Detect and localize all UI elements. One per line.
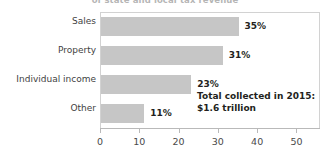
category-axis: Sales Property Individual income Other <box>0 12 96 129</box>
bar-property <box>101 46 223 65</box>
total-annotation: Total collected in 2015: $1.6 trillion <box>197 91 315 114</box>
annotation-line-2: $1.6 trillion <box>197 103 315 115</box>
x-tick-50 <box>296 128 297 133</box>
x-tick-30 <box>218 128 219 133</box>
plot-area: 35% 31% 23% 11% Total collected in 2015:… <box>100 12 320 129</box>
x-tick-20 <box>179 128 180 133</box>
x-tick-40 <box>257 128 258 133</box>
x-tick-label-0: 0 <box>97 136 103 147</box>
bar-sales <box>101 17 239 36</box>
bar-value-sales: 35% <box>245 17 267 36</box>
bar-chart-figure: of state and local tax revenue Sales Pro… <box>0 0 330 159</box>
bar-value-other: 11% <box>150 104 172 123</box>
x-tick-label-40: 40 <box>251 136 263 147</box>
x-tick-label-10: 10 <box>133 136 145 147</box>
annotation-line-1: Total collected in 2015: <box>197 91 315 103</box>
bar-individual-income <box>101 75 191 94</box>
x-tick-10 <box>139 128 140 133</box>
bar-other <box>101 104 144 123</box>
x-tick-label-50: 50 <box>290 136 302 147</box>
x-tick-label-20: 20 <box>173 136 185 147</box>
bar-value-property: 31% <box>229 46 251 65</box>
category-label-individual-income: Individual income <box>0 74 96 84</box>
x-axis: 01020304050 <box>100 128 320 159</box>
category-label-property: Property <box>0 45 96 55</box>
x-tick-label-30: 30 <box>212 136 224 147</box>
chart-title: of state and local tax revenue <box>0 0 330 5</box>
category-label-other: Other <box>0 103 96 113</box>
x-tick-0 <box>100 128 101 133</box>
category-label-sales: Sales <box>0 16 96 26</box>
x-axis-line <box>100 128 320 129</box>
